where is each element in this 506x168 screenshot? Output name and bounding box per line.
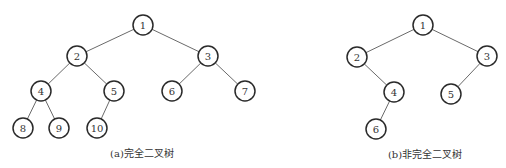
tree-edge-1-2 xyxy=(86,29,134,51)
tree-edge-3-6 xyxy=(179,63,201,84)
node-label: 9 xyxy=(56,123,62,134)
tree-node: 3 xyxy=(198,46,218,66)
tree-node: 3 xyxy=(477,46,497,66)
tree-node: 6 xyxy=(366,119,386,139)
tree-edge-4-8 xyxy=(27,100,36,119)
complete-binary-tree: 12345678910(a)完全二叉树 xyxy=(13,15,255,159)
node-label: 3 xyxy=(484,51,490,62)
tree-node: 8 xyxy=(13,118,33,138)
tree-edge-3-7 xyxy=(215,63,237,84)
tree-edge-2-5 xyxy=(84,63,106,84)
node-label: 8 xyxy=(20,123,26,134)
tree-node: 2 xyxy=(347,47,367,67)
incomplete-binary-tree: 123456(b)非完全二叉树 xyxy=(347,15,497,160)
node-label: 5 xyxy=(448,89,454,100)
tree-node: 6 xyxy=(162,81,182,101)
tree-node: 1 xyxy=(413,15,433,35)
tree-node: 2 xyxy=(67,46,87,66)
tree-edge-1-3 xyxy=(152,29,199,51)
node-label: 1 xyxy=(420,20,426,31)
diagram-caption: (a)完全二叉树 xyxy=(110,147,174,159)
tree-edge-4-6 xyxy=(380,101,389,120)
node-label: 7 xyxy=(242,86,248,97)
tree-edge-1-2 xyxy=(366,29,414,52)
node-label: 6 xyxy=(169,86,175,97)
node-label: 6 xyxy=(373,124,379,135)
tree-node: 4 xyxy=(31,81,51,101)
node-label: 3 xyxy=(205,51,211,62)
tree-node: 5 xyxy=(441,84,461,104)
tree-edge-5-10 xyxy=(101,100,110,119)
node-label: 10 xyxy=(91,123,104,134)
tree-edge-4-9 xyxy=(45,100,54,119)
node-label: 2 xyxy=(74,51,80,62)
tree-edge-2-4 xyxy=(364,64,386,85)
diagram-caption: (b)非完全二叉树 xyxy=(388,148,462,160)
tree-node: 7 xyxy=(235,81,255,101)
tree-node: 10 xyxy=(87,118,107,138)
node-label: 1 xyxy=(140,20,146,31)
tree-edge-1-3 xyxy=(432,29,478,51)
node-label: 4 xyxy=(38,86,44,97)
node-label: 4 xyxy=(391,87,397,98)
tree-node: 9 xyxy=(49,118,69,138)
tree-node: 1 xyxy=(133,15,153,35)
binary-tree-diagrams: 12345678910(a)完全二叉树 123456(b)非完全二叉树 xyxy=(0,0,506,168)
tree-node: 4 xyxy=(384,82,404,102)
node-label: 2 xyxy=(354,52,360,63)
node-label: 5 xyxy=(111,86,117,97)
tree-edge-2-4 xyxy=(48,63,70,84)
tree-node: 5 xyxy=(104,81,124,101)
tree-edge-3-5 xyxy=(458,63,480,86)
